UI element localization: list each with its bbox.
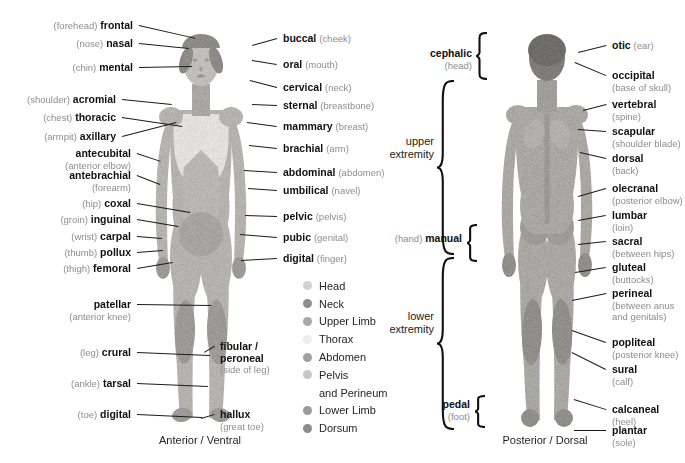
label-femoral: (thigh) femoral (63, 263, 131, 275)
label-antecubital: antecubital(anterior elbow) (65, 148, 131, 171)
bracket-label-upper-extremity: upperextremity (389, 135, 434, 161)
label-sural: sural(calf) (612, 364, 637, 387)
legend-color-swatch (303, 424, 312, 433)
anatomy-diagram: (forehead) frontal(nose) nasal(chin) men… (0, 0, 685, 463)
legend-color-swatch (303, 317, 312, 326)
legend-color-swatch (303, 281, 312, 290)
legend-label: Neck (319, 298, 344, 310)
legend-label: Head (319, 280, 345, 292)
label-patellar: patellar(anterior knee) (69, 299, 131, 322)
label-mammary: mammary (breast) (283, 121, 368, 133)
label-frontal: (forehead) frontal (54, 20, 133, 32)
label-coxal: (hip) coxal (82, 198, 131, 210)
legend-color-swatch (303, 353, 312, 362)
label-axillary: (armpit) axillary (44, 131, 116, 143)
legend-item-head: Head (303, 277, 388, 295)
label-digital: (toe) digital (78, 409, 131, 421)
label-sacral: sacral(between hips) (612, 236, 674, 259)
label-inguinal: (groin) inguinal (60, 214, 131, 226)
label-gluteal: gluteal(buttocks) (612, 262, 654, 285)
brace-upper-extremity (436, 80, 454, 255)
label-pelvic: pelvic (pelvis) (283, 211, 346, 223)
label-perineal: perineal(between anusand genitals) (612, 288, 674, 323)
label-tarsal: (ankle) tarsal (71, 378, 131, 390)
label-plantar: plantar(sole) (612, 425, 647, 448)
legend-label: Abdomen (319, 351, 366, 363)
legend-label: Pelvis (319, 369, 348, 381)
legend-item-abdomen: Abdomen (303, 348, 388, 366)
legend-label: Thorax (319, 333, 353, 345)
label-pollux: (thumb) pollux (64, 247, 131, 259)
label-vertebral: vertebral(spine) (612, 99, 656, 122)
label-pubic: pubic (genital) (283, 232, 348, 244)
label-dorsal: dorsal(back) (612, 153, 644, 176)
legend-item-dorsum: Dorsum (303, 419, 388, 437)
label-cephalic: cephalic(head) (430, 48, 472, 71)
legend-color-swatch (303, 370, 312, 379)
brace-cephalic (475, 32, 487, 80)
posterior-body-figure (488, 22, 606, 430)
caption-posterior: Posterior / Dorsal (503, 434, 588, 446)
label-crural: (leg) crural (80, 347, 131, 359)
label-carpal: (wrist) carpal (71, 231, 131, 243)
label-fibular-peroneal: fibular /peroneal(side of leg) (220, 341, 270, 376)
label-oral: oral (mouth) (283, 59, 338, 71)
label-occipital: occipital(base of skull) (612, 70, 671, 93)
label-sternal: sternal (breastbone) (283, 100, 374, 112)
legend-color-swatch (303, 406, 312, 415)
legend-item-lower-limb: Lower Limb (303, 402, 388, 420)
legend-color-swatch (303, 299, 312, 308)
legend-label: Lower Limb (319, 404, 376, 416)
legend-item-thorax: Thorax (303, 330, 388, 348)
label-mental: (chin) mental (72, 62, 133, 74)
legend-label-continuation: and Perineum (319, 384, 388, 402)
legend-label: Upper Limb (319, 315, 376, 327)
label-abdominal: abdominal (abdomen) (283, 167, 384, 179)
label-scapular: scapular(shoulder blade) (612, 126, 681, 149)
label-otic: otic (ear) (612, 40, 654, 52)
caption-anterior: Anterior / Ventral (159, 434, 241, 446)
label-antebrachial: antebrachial(forearm) (69, 170, 131, 193)
label-thoracic: (chest) thoracic (43, 112, 116, 124)
brace-lower-extremity (436, 257, 454, 430)
brace-manual (466, 224, 477, 262)
legend-label: Dorsum (319, 422, 358, 434)
label-hallux: hallux(great toe) (220, 409, 264, 432)
label-buccal: buccal (cheek) (283, 33, 351, 45)
label-acromial: (shoulder) acromial (27, 94, 116, 106)
legend-color-swatch (303, 335, 312, 344)
legend-item-neck: Neck (303, 295, 388, 313)
label-cervical: cervical (neck) (283, 82, 351, 94)
legend-item-upper-limb: Upper Limb (303, 313, 388, 331)
label-umbilical: umbilical (navel) (283, 185, 360, 197)
bracket-label-lower-extremity: lowerextremity (389, 310, 434, 336)
brace-pedal (474, 395, 485, 428)
label-nasal: (nose) nasal (76, 38, 133, 50)
label-popliteal: popliteal(posterior knee) (612, 337, 679, 360)
legend-item-pelvis: Pelvis (303, 366, 388, 384)
label-olecranal: olecranal(posterior elbow) (612, 183, 683, 206)
region-color-legend: HeadNeckUpper LimbThoraxAbdomenPelvisand… (303, 277, 388, 437)
label-digital: digital (finger) (283, 253, 347, 265)
label-brachial: brachial (arm) (283, 143, 349, 155)
label-lumbar: lumbar(loin) (612, 210, 647, 233)
leader-plantar (574, 430, 606, 431)
